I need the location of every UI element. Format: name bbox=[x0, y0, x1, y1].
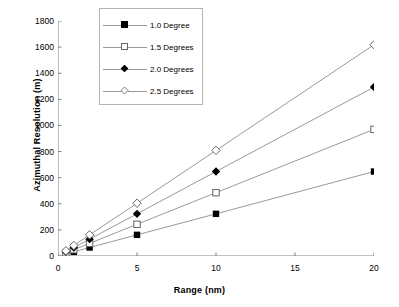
legend-label: 2.5 Degrees bbox=[147, 87, 194, 96]
data-point bbox=[212, 167, 220, 175]
marker-diamond-filled bbox=[133, 210, 141, 218]
marker-square-open bbox=[213, 189, 219, 195]
legend-sample bbox=[103, 63, 147, 75]
x-tick-label: 5 bbox=[117, 264, 157, 273]
marker-square-filled bbox=[213, 211, 219, 217]
y-tick-label: 0 bbox=[8, 252, 54, 261]
legend-sample bbox=[103, 85, 147, 97]
marker-diamond-open bbox=[133, 199, 141, 207]
legend-marker-diamond-open-icon bbox=[121, 87, 128, 94]
legend-item-1-0-degree[interactable]: 1.0 Degree bbox=[100, 14, 202, 36]
data-point bbox=[134, 221, 140, 227]
y-tick-label: 800 bbox=[8, 148, 54, 157]
chart-container: Azimuthal Resolution (m) 180016001400120… bbox=[0, 0, 399, 307]
y-tick-label: 400 bbox=[8, 200, 54, 209]
y-tick-label: 1200 bbox=[8, 95, 54, 104]
data-point bbox=[213, 189, 219, 195]
marker-diamond-open-icon bbox=[120, 86, 128, 94]
x-axis-tick-labels: 05101520 bbox=[58, 264, 388, 280]
legend-label: 1.0 Degree bbox=[147, 21, 190, 30]
legend-marker-diamond-filled-icon bbox=[121, 65, 128, 72]
x-tick-label: 20 bbox=[354, 264, 394, 273]
x-tick-label: 0 bbox=[38, 264, 78, 273]
series-line bbox=[66, 172, 374, 254]
x-axis-title: Range (nm) bbox=[0, 285, 399, 295]
marker-square-open bbox=[134, 221, 140, 227]
marker-diamond-filled bbox=[212, 167, 220, 175]
marker-square-filled bbox=[134, 232, 140, 238]
marker-square-filled-icon bbox=[121, 21, 128, 28]
data-point bbox=[371, 126, 374, 132]
y-tick-label: 200 bbox=[8, 226, 54, 235]
y-tick-label: 1400 bbox=[8, 69, 54, 78]
series-line bbox=[66, 87, 374, 252]
x-tick-label: 15 bbox=[275, 264, 315, 273]
data-point bbox=[371, 168, 374, 174]
x-tick-label: 10 bbox=[196, 264, 236, 273]
data-point bbox=[212, 146, 220, 154]
legend-item-2-0-degrees[interactable]: 2.0 Degrees bbox=[100, 58, 202, 80]
legend-item-1-5-degrees[interactable]: 1.5 Degrees bbox=[100, 36, 202, 58]
legend-sample bbox=[103, 41, 147, 53]
y-tick-label: 1000 bbox=[8, 121, 54, 130]
legend-label: 1.5 Degrees bbox=[147, 43, 194, 52]
legend-marker-square-open-icon bbox=[121, 43, 128, 50]
legend-label: 2.0 Degrees bbox=[147, 65, 194, 74]
marker-square-filled bbox=[371, 168, 374, 174]
y-tick-label: 1800 bbox=[8, 17, 54, 26]
chart-legend: 1.0 Degree1.5 Degrees2.0 Degrees2.5 Degr… bbox=[99, 8, 203, 105]
marker-diamond-filled-icon bbox=[121, 65, 129, 73]
data-point bbox=[213, 211, 219, 217]
legend-item-2-5-degrees[interactable]: 2.5 Degrees bbox=[100, 80, 202, 102]
y-tick-label: 600 bbox=[8, 174, 54, 183]
legend-marker-square-filled-icon bbox=[121, 21, 128, 28]
data-point bbox=[134, 232, 140, 238]
marker-square-open-icon bbox=[121, 43, 128, 50]
data-point bbox=[133, 210, 141, 218]
y-tick-label: 1600 bbox=[8, 43, 54, 52]
marker-diamond-open bbox=[212, 146, 220, 154]
marker-square-open bbox=[371, 126, 374, 132]
y-axis-tick-labels: 180016001400120010008006004002000 bbox=[0, 0, 54, 307]
legend-sample bbox=[103, 19, 147, 31]
data-point bbox=[370, 83, 374, 91]
data-point bbox=[133, 199, 141, 207]
marker-diamond-filled bbox=[370, 83, 374, 91]
